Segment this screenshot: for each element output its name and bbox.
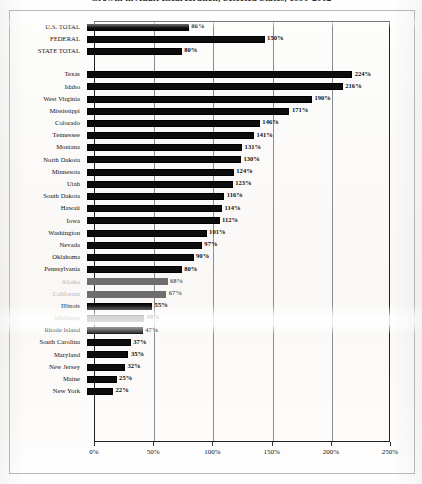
bar-row-label: Utah <box>0 181 86 188</box>
bar-row: Hawaii114% <box>0 203 422 215</box>
bar-row: Utah123% <box>0 178 422 190</box>
x-axis-tick-label: 200% <box>323 448 339 456</box>
bar-row: Washington101% <box>0 227 422 239</box>
bar-value-label: 32% <box>125 363 141 370</box>
bar <box>87 181 233 188</box>
bar-row: Montana131% <box>0 142 422 154</box>
bar <box>87 388 113 395</box>
bar-track: 116% <box>86 190 422 202</box>
bar-track: 190% <box>86 93 422 105</box>
bar-value-label: 68% <box>168 278 184 285</box>
bar <box>87 83 343 90</box>
bar <box>87 254 194 261</box>
bar-track: 37% <box>86 337 422 349</box>
bar <box>87 205 222 212</box>
bar <box>87 217 220 224</box>
bar <box>87 351 128 358</box>
bar-value-label: 124% <box>234 168 253 175</box>
bar-row-label: Nevada <box>0 242 86 249</box>
bar-track: 141% <box>86 130 422 142</box>
bar-value-label: 37% <box>131 339 147 346</box>
bar <box>87 71 352 78</box>
bar-row: South Carolina37% <box>0 337 422 349</box>
bar-value-label: 25% <box>117 375 133 382</box>
bar <box>87 120 260 127</box>
bar <box>87 144 242 151</box>
bar-rows: U.S. TOTAL86%FEDERAL150%STATE TOTAL80%Te… <box>0 21 422 398</box>
bar-row-label: New Jersey <box>0 364 86 371</box>
bar-value-label: 130% <box>241 156 260 163</box>
bar <box>87 266 182 273</box>
bar-row: Maine25% <box>0 373 422 385</box>
bar-value-label: 123% <box>233 180 252 187</box>
chart-title: Growth in Adult Incarceration, Selected … <box>0 0 422 3</box>
x-axis-tick <box>331 442 332 446</box>
bar <box>87 278 168 285</box>
bar-row-label: Texas <box>0 71 86 78</box>
x-axis-tick <box>212 442 213 446</box>
bar-row: Illinois55% <box>0 300 422 312</box>
bar-row-label: Iowa <box>0 218 86 225</box>
bar-row-label: Maine <box>0 376 86 383</box>
bar-value-label: 114% <box>222 205 241 212</box>
bar-row-label: Tennessee <box>0 132 86 139</box>
bar-track: 101% <box>86 227 422 239</box>
bar-row: Tennessee141% <box>0 130 422 142</box>
bar-value-label: 80% <box>182 266 198 273</box>
bar <box>87 364 125 371</box>
bar-track: 124% <box>86 166 422 178</box>
bar-value-label: 80% <box>182 47 198 54</box>
bar-track: 48% <box>86 312 422 324</box>
bar-row-label: Minnesota <box>0 169 86 176</box>
bar-row-label: Alaska <box>0 279 86 286</box>
bar-value-label: 146% <box>260 119 279 126</box>
bar-track: 68% <box>86 276 422 288</box>
bar-track: 32% <box>86 361 422 373</box>
bar-value-label: 131% <box>242 144 261 151</box>
bar-value-label: 171% <box>289 107 308 114</box>
bar-row: New York22% <box>0 385 422 397</box>
bar-row: Colorado146% <box>0 117 422 129</box>
bar <box>87 291 166 298</box>
bar-value-label: 86% <box>189 23 205 30</box>
bar-row-label: South Dakota <box>0 193 86 200</box>
bar-row: FEDERAL150% <box>0 33 422 45</box>
bar-row: Rhode Island47% <box>0 325 422 337</box>
bar-row-label: Washington <box>0 230 86 237</box>
bar <box>87 327 143 334</box>
bar <box>87 132 254 139</box>
x-axis-tick-label: 50% <box>147 448 160 456</box>
x-axis-tick <box>153 442 154 446</box>
bar-track: 123% <box>86 178 422 190</box>
bar-track: 67% <box>86 288 422 300</box>
bar-row-label: U.S. TOTAL <box>0 24 86 31</box>
bar <box>87 193 224 200</box>
bar <box>87 169 234 176</box>
x-axis-tick-label: 100% <box>204 448 220 456</box>
x-axis-tick <box>272 442 273 446</box>
row-spacer <box>0 58 422 69</box>
bar-row-label: STATE TOTAL <box>0 48 86 55</box>
bar <box>87 315 144 322</box>
bar-row: U.S. TOTAL86% <box>0 21 422 33</box>
bar <box>87 36 265 43</box>
bar-row-label: Michigan <box>0 315 86 322</box>
bar-row: North Dakota130% <box>0 154 422 166</box>
bar-row-label: North Dakota <box>0 157 86 164</box>
bar-track: 86% <box>86 21 422 33</box>
bar-track: 22% <box>86 385 422 397</box>
scanned-page: Growth in Adult Incarceration, Selected … <box>0 0 422 484</box>
bar-row: Oklahoma90% <box>0 251 422 263</box>
bar-row: Texas224% <box>0 69 422 81</box>
bar-value-label: 224% <box>352 71 371 78</box>
bar-value-label: 67% <box>166 290 182 297</box>
bar <box>87 96 312 103</box>
bar-value-label: 22% <box>113 387 129 394</box>
bar-track: 97% <box>86 239 422 251</box>
bar-row-label: South Carolina <box>0 339 86 346</box>
bar-row-label: Idaho <box>0 84 86 91</box>
bar-row-label: Pennsylvania <box>0 266 86 273</box>
bar-value-label: 35% <box>128 351 144 358</box>
bar-value-label: 97% <box>202 241 218 248</box>
bar-value-label: 101% <box>207 229 226 236</box>
